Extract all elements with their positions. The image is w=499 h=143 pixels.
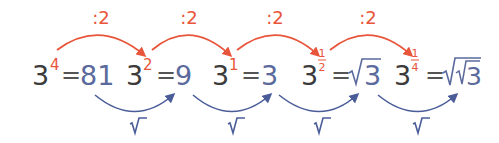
bottom-arrow-4 bbox=[378, 95, 456, 133]
term-base: 3 bbox=[301, 60, 318, 91]
sqrt-symbol-icon bbox=[413, 118, 430, 133]
bottom-arrow-1 bbox=[95, 95, 173, 133]
term-value: 3 bbox=[364, 60, 381, 91]
blue-arc-arrow-icon bbox=[95, 95, 173, 112]
exponent-denominator: 4 bbox=[412, 61, 419, 74]
term-exponent: 1 bbox=[229, 56, 239, 74]
bottom-arrow-2 bbox=[193, 95, 270, 133]
sqrt-symbol-icon bbox=[130, 118, 147, 133]
equals-sign: = bbox=[425, 61, 445, 89]
term-base: 3 bbox=[32, 60, 49, 91]
blue-arc-arrow-icon bbox=[193, 95, 270, 112]
term-value: 3 bbox=[261, 60, 278, 91]
term-value: 3 bbox=[466, 62, 482, 91]
equals-sign: = bbox=[331, 61, 351, 89]
term-2: 3 2 = 9 bbox=[126, 56, 192, 91]
top-arrow-1: :2 bbox=[57, 7, 144, 55]
divide-by-two-label: :2 bbox=[359, 7, 377, 28]
term-value: 81 bbox=[80, 60, 114, 91]
divide-by-two-label: :2 bbox=[266, 7, 284, 28]
term-base: 3 bbox=[126, 60, 143, 91]
equals-sign: = bbox=[156, 61, 176, 89]
term-exponent: 4 bbox=[50, 56, 60, 74]
divide-by-two-label: :2 bbox=[92, 7, 110, 28]
top-arrow-2: :2 bbox=[152, 7, 230, 55]
term-base: 3 bbox=[394, 60, 411, 91]
bottom-arrow-3 bbox=[279, 95, 357, 133]
exponent-numerator: 1 bbox=[412, 47, 419, 60]
exponent-numerator: 1 bbox=[319, 47, 326, 60]
orange-arc-arrow-icon bbox=[330, 35, 411, 55]
orange-arc-arrow-icon bbox=[237, 35, 318, 55]
term-exponent: 2 bbox=[143, 56, 153, 74]
exponent-halving-diagram: :2 :2 :2 :2 3 4 = 81 3 2 = 9 3 1 = 3 3 1… bbox=[0, 0, 499, 143]
orange-arc-arrow-icon bbox=[152, 35, 230, 55]
equals-sign: = bbox=[61, 61, 81, 89]
sqrt-symbol-icon bbox=[228, 118, 245, 133]
divide-by-two-label: :2 bbox=[180, 7, 198, 28]
term-value: 9 bbox=[175, 60, 192, 91]
term-3: 3 1 = 3 bbox=[212, 56, 278, 91]
top-arrow-4: :2 bbox=[330, 7, 411, 55]
orange-arc-arrow-icon bbox=[57, 35, 144, 55]
blue-arc-arrow-icon bbox=[378, 95, 456, 112]
top-arrow-3: :2 bbox=[237, 7, 318, 55]
sqrt-symbol-icon bbox=[314, 118, 331, 133]
term-5: 3 1 4 = 3 bbox=[394, 47, 482, 91]
exponent-denominator: 2 bbox=[319, 61, 326, 74]
term-1: 3 4 = 81 bbox=[32, 56, 114, 91]
equals-sign: = bbox=[241, 61, 261, 89]
term-base: 3 bbox=[212, 60, 229, 91]
blue-arc-arrow-icon bbox=[279, 95, 357, 112]
term-4: 3 1 2 = 3 bbox=[301, 47, 381, 91]
